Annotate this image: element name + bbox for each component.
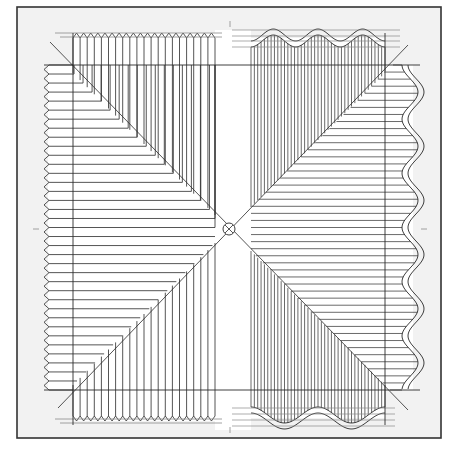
technical-drawing [0,0,452,459]
right-corrugated-panel [251,65,424,390]
center-point-marker [223,223,235,235]
drawing-canvas [0,0,452,459]
